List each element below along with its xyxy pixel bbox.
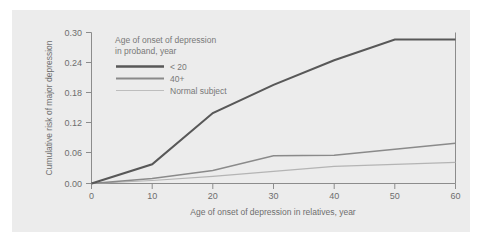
x-tick-label-5: 50 bbox=[390, 191, 400, 201]
y-tick-label-2: 0.12 bbox=[64, 118, 82, 128]
series-line-under20 bbox=[92, 40, 456, 184]
y-tick-label-4: 0.24 bbox=[64, 58, 82, 68]
legend-label-normal-subject: Normal subject bbox=[170, 86, 227, 96]
y-tick-label-5: 0.30 bbox=[64, 28, 82, 38]
x-tick-label-3: 30 bbox=[268, 191, 278, 201]
chart-canvas: 0.30 0.24 0.18 0.12 0.06 0.00 0 10 20 30… bbox=[0, 0, 484, 241]
y-axis-title: Cumulative risk of major depression bbox=[44, 40, 54, 175]
legend-title-line2: in proband, year bbox=[115, 46, 177, 56]
y-tick-label-3: 0.18 bbox=[64, 88, 82, 98]
y-tick-label-1: 0.06 bbox=[64, 148, 82, 158]
x-tick-label-4: 40 bbox=[329, 191, 339, 201]
series-line-40plus bbox=[92, 143, 456, 183]
x-tick-label-1: 10 bbox=[147, 191, 157, 201]
x-tick-label-0: 0 bbox=[89, 191, 94, 201]
legend-title-line1: Age of onset of depression bbox=[115, 35, 216, 45]
x-axis-title: Age of onset of depression in relatives,… bbox=[190, 207, 356, 217]
legend-label-40plus: 40+ bbox=[170, 74, 184, 84]
x-tick-label-6: 60 bbox=[450, 191, 460, 201]
legend: Age of onset of depression in proband, y… bbox=[115, 35, 227, 96]
y-tick-label-0: 0.00 bbox=[64, 179, 82, 189]
legend-label-under20: < 20 bbox=[170, 62, 187, 72]
x-tick-label-2: 20 bbox=[208, 191, 218, 201]
